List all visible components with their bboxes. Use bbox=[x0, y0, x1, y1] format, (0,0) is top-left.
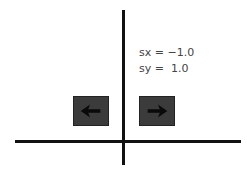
arrow-left-icon bbox=[74, 97, 108, 125]
sy-label: sy = 1.0 bbox=[139, 63, 188, 75]
sx-label: sx = −1.0 bbox=[139, 47, 194, 59]
original-box bbox=[139, 96, 175, 126]
arrow-right-icon bbox=[140, 97, 174, 125]
reflected-box bbox=[73, 96, 109, 126]
horizontal-axis bbox=[15, 140, 241, 143]
